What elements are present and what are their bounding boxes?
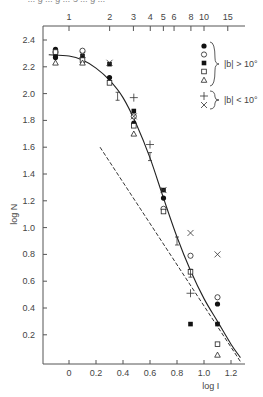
x-tick-label: 0.2 [90, 368, 103, 378]
legend-label-low-latitude: |b| < 10° [224, 95, 258, 105]
legend-brace [210, 42, 219, 86]
x-axis-label: log I [202, 381, 219, 391]
open-square-marker [202, 69, 207, 74]
x-tick-label: 0.6 [144, 368, 157, 378]
y-tick-label: 0.8 [22, 249, 35, 259]
y-tick-label: 1.4 [22, 169, 35, 179]
error-bar-marker [116, 92, 120, 100]
chart: 00.20.40.60.81.01.20.20.40.60.81.01.21.4… [0, 0, 263, 397]
open-triangle-marker [201, 77, 207, 82]
open-triangle-marker [131, 131, 137, 136]
top-tick-label: 1 [66, 12, 71, 22]
plus-marker [130, 94, 138, 102]
legend: |b| > 10°|b| < 10° [200, 42, 258, 109]
cross-marker [188, 230, 194, 236]
top-tick-label: 8 [188, 12, 193, 22]
y-axis-label: log N [9, 204, 19, 225]
filled-square-marker [132, 109, 137, 114]
y-tick-label: 0.4 [22, 303, 35, 313]
y-tick-label: 0.2 [22, 330, 35, 340]
top-tick-label: 2 [107, 12, 112, 22]
top-tick-label: 3 [131, 12, 136, 22]
filled-circle-marker [161, 196, 166, 201]
filled-circle-marker [201, 43, 206, 48]
legend-label-high-latitude: |b| > 10° [224, 59, 258, 69]
open-square-marker [53, 50, 58, 55]
filled-square-marker [188, 322, 193, 327]
y-tick-label: 1.2 [22, 196, 35, 206]
open-circle-marker [188, 253, 193, 258]
axes: 00.20.40.60.81.01.20.20.40.60.81.01.21.4… [9, 12, 245, 391]
open-square-marker [132, 123, 137, 128]
y-tick-label: 2.2 [22, 62, 35, 72]
top-tick-label: 6 [172, 12, 177, 22]
x-tick-label: 0.4 [117, 368, 130, 378]
data-points [53, 47, 221, 357]
open-triangle-marker [215, 352, 221, 357]
plus-marker [200, 92, 208, 100]
cross-marker [215, 251, 221, 257]
dashed-asymptote-line [100, 147, 240, 361]
open-circle-marker [201, 52, 206, 57]
x-tick-label: 0.8 [171, 368, 184, 378]
open-square-marker [161, 209, 166, 214]
y-tick-label: 1.0 [22, 223, 35, 233]
plus-marker [146, 141, 154, 149]
y-tick-label: 1.8 [22, 115, 35, 125]
open-triangle-marker [53, 60, 59, 65]
top-tick-label: 15 [223, 12, 233, 22]
filled-square-marker [202, 61, 207, 66]
legend-brace [210, 91, 219, 109]
x-tick-label: 0 [66, 368, 71, 378]
filled-circle-marker [215, 301, 220, 306]
filled-circle-marker [107, 75, 112, 80]
filled-square-marker [215, 322, 220, 327]
curves [49, 55, 241, 362]
top-tick-label: 5 [161, 12, 166, 22]
open-circle-marker [215, 295, 220, 300]
x-tick-label: 1.2 [225, 368, 238, 378]
open-square-marker [107, 81, 112, 86]
y-tick-label: 0.6 [22, 276, 35, 286]
top-tick-label: 4 [148, 12, 153, 22]
y-tick-label: 1.6 [22, 142, 35, 152]
y-tick-label: 2.4 [22, 35, 35, 45]
top-tick-label: 10 [199, 12, 209, 22]
y-tick-label: 2.0 [22, 89, 35, 99]
cross-marker [201, 102, 207, 108]
x-tick-label: 1.0 [198, 368, 211, 378]
open-square-marker [215, 342, 220, 347]
model-fit-curve [49, 55, 241, 358]
